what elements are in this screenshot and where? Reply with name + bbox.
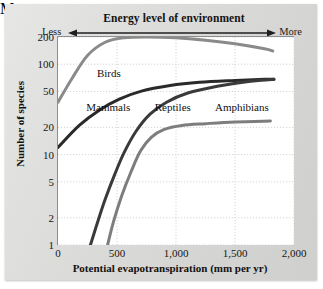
x-tick-label: 1,500: [223, 247, 248, 259]
y-tick-label: 100: [38, 58, 55, 70]
figure-root: More --> Energy level of environment Les…: [0, 0, 323, 289]
series-curves: [58, 37, 294, 245]
x-tick-label: 0: [55, 247, 61, 259]
y-tick-label: 50: [43, 85, 54, 97]
series-line-birds: [58, 37, 273, 102]
series-label-mammals: Mammals: [86, 101, 130, 113]
chart-title: Energy level of environment: [76, 12, 272, 24]
x-tick-label: 2,000: [282, 247, 307, 259]
y-tick-label: 20: [43, 121, 54, 133]
y-tick-label: 10: [43, 149, 54, 161]
series-label-amphibians: Amphibians: [215, 101, 269, 113]
plot-area: 12510205010020005001,0001,5002,000BirdsM…: [57, 36, 294, 245]
series-label-birds: Birds: [97, 67, 121, 79]
series-label-reptiles: Reptiles: [155, 101, 191, 113]
y-tick-label: 200: [38, 31, 55, 43]
plot-inner: 12510205010020005001,0001,5002,000BirdsM…: [58, 37, 294, 245]
series-line-mammals: [58, 79, 274, 147]
y-tick-label: 5: [49, 176, 55, 188]
x-axis-title: Potential evapotranspiration (mm per yr): [40, 262, 300, 274]
y-tick-label: 1: [49, 239, 55, 251]
y-axis-title: Number of species: [14, 54, 26, 194]
x-tick-label: 1,000: [164, 247, 189, 259]
x-tick-label: 500: [109, 247, 126, 259]
y-tick-label: 2: [49, 212, 55, 224]
